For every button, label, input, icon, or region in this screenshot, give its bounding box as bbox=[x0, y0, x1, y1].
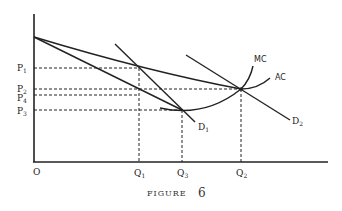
label-q1: Q1 bbox=[134, 168, 145, 179]
label-ac: AC bbox=[275, 73, 286, 82]
label-q2: Q2 bbox=[236, 168, 247, 179]
dashed-guides bbox=[34, 68, 241, 162]
figure-6-diagram: P1 P2 P4 P3 O Q1 Q3 Q2 MC AC D1 D2 FIGUR… bbox=[0, 0, 342, 211]
upper-curve bbox=[34, 37, 241, 89]
d2-line bbox=[186, 55, 290, 120]
label-d1: D1 bbox=[198, 122, 209, 133]
label-origin: O bbox=[33, 167, 40, 177]
label-d2: D2 bbox=[292, 116, 303, 127]
label-mc: MC bbox=[254, 55, 267, 64]
lower-line bbox=[34, 37, 182, 110]
equilibrium-point bbox=[239, 87, 243, 91]
figure-number: 6 bbox=[198, 186, 206, 200]
label-p3: P3 bbox=[17, 106, 27, 117]
label-q3: Q3 bbox=[177, 168, 188, 179]
label-p1: P1 bbox=[17, 63, 27, 74]
figure-caption: FIGURE bbox=[147, 189, 187, 198]
